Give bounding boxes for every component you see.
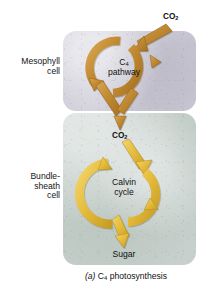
caption-text-before-subscript: C (95, 271, 104, 281)
sugar-label: Sugar (99, 250, 149, 260)
co2-input-text: CO (163, 12, 175, 21)
bundle-sheath-cell-label: Bundle- sheath cell (2, 172, 60, 201)
mesophyll-cell-label: Mesophyll cell (2, 57, 60, 76)
calvin-cycle-label: Calvincycle (94, 178, 154, 197)
co2-transfer-label: CO2 (112, 131, 127, 140)
caption-text-after-subscript: photosynthesis (107, 271, 167, 281)
c4-pathway-line2: pathway (108, 67, 140, 77)
c4-co2-outlet-arrowhead (114, 116, 126, 130)
calvin-sugar-outlet-arrowhead (115, 233, 129, 248)
cycle-arrows-diagram (0, 0, 212, 291)
figure-caption: (a) C4 photosynthesis (46, 271, 206, 281)
co2-input-subscript: 2 (175, 15, 178, 21)
c4-photosynthesis-figure: Mesophyll cell Bundle- sheath cell CO2 C… (0, 0, 212, 291)
calvin-cycle-line1: Calvin (112, 177, 136, 187)
co2-input-label: CO2 (163, 12, 178, 21)
caption-part-label: (a) (85, 271, 96, 281)
co2-transfer-subscript: 2 (124, 134, 127, 140)
c4-pathway-label: C4pathway (94, 58, 154, 77)
c4-pathway-line1-subscript: 4 (125, 61, 128, 67)
calvin-cycle-line2: cycle (114, 187, 134, 197)
caption-subscript: 4 (104, 275, 107, 281)
co2-transfer-text: CO (112, 131, 124, 140)
